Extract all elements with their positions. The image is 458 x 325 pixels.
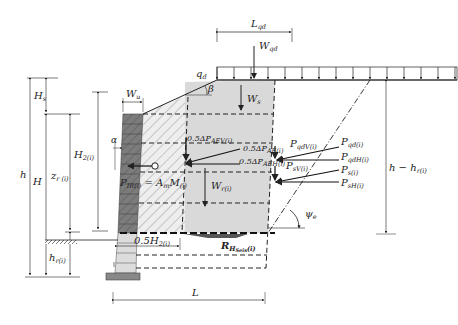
label-PsH: PsH(i) xyxy=(340,177,364,190)
label-H2: H2(i) xyxy=(73,149,94,162)
surcharge-load xyxy=(217,67,457,80)
psi-arc xyxy=(290,210,299,228)
label-Hs: Hs xyxy=(33,90,47,103)
label-RH-seis: RHSeis(i) xyxy=(220,240,256,253)
label-beta: β xyxy=(207,83,214,94)
label-Lqd: Lqd xyxy=(250,18,266,31)
RH-seis-arrow xyxy=(184,234,248,238)
label-hr: hr(i) xyxy=(49,252,66,265)
label-qd: qd xyxy=(196,68,207,81)
label-alpha: α xyxy=(111,135,117,145)
label-L: L xyxy=(191,287,199,298)
label-Ps: Ps(i) xyxy=(340,164,359,177)
label-h-minus-hr: h − hr(i) xyxy=(389,162,427,175)
inertia-point xyxy=(152,163,158,169)
mse-wall-seismic-diagram: Lqd Wqd qd β Ws Wu α Hs h H zr (i) H2(i)… xyxy=(0,0,458,325)
label-zr: zr (i) xyxy=(50,170,69,183)
label-Wqd: Wqd xyxy=(259,40,278,53)
label-h: h xyxy=(20,169,26,180)
label-PsV: PsV(i) xyxy=(285,160,308,173)
label-PqdH: PqdH(i) xyxy=(340,151,369,164)
label-Pqd: Pqd(i) xyxy=(340,136,364,149)
label-psi-e: ψe xyxy=(305,208,317,221)
label-Wu: Wu xyxy=(126,88,140,101)
label-H: H xyxy=(32,176,42,187)
toe-ground xyxy=(45,240,77,244)
reinforced-soil-zone xyxy=(138,96,185,233)
label-PqdV: PqdV(i) xyxy=(289,138,317,151)
